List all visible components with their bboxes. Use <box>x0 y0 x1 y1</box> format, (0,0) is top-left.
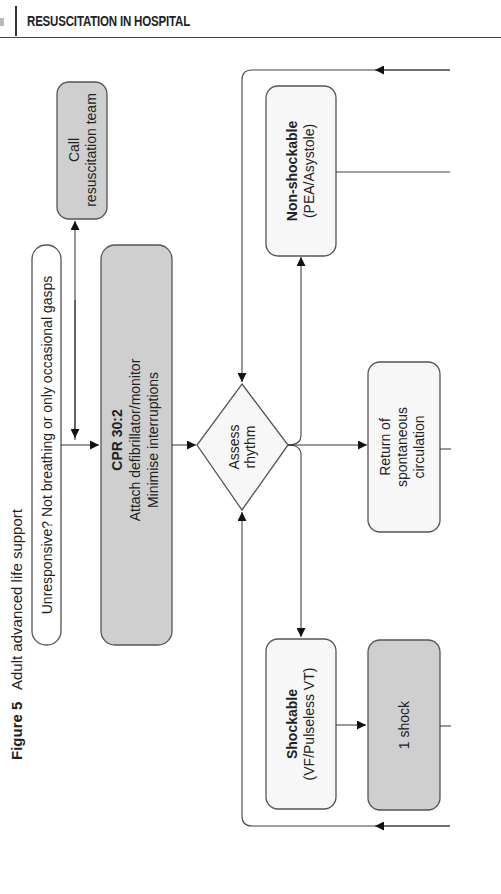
node-rosc-line1: Return of <box>377 418 393 476</box>
als-flowchart: Figure 5 Adult advanced life support Unr… <box>0 0 501 894</box>
node-assess-line2: rhythm <box>242 426 258 469</box>
node-cpr-line3: Minimise interruptions <box>145 372 161 508</box>
figure-label: Figure 5 <box>8 702 25 760</box>
node-call-team-box <box>57 82 107 219</box>
node-unresponsive-text: Unresponsive? Not breathing or only occa… <box>39 276 55 615</box>
branch-to-shockable <box>288 445 301 637</box>
node-cpr-line1: CPR 30:2 <box>109 409 125 471</box>
node-shockable-line1: Shockable <box>284 689 300 759</box>
node-shockable-line2: (VF/Pulseless VT) <box>301 668 317 781</box>
node-non-shockable-line1: Non-shockable <box>284 121 300 222</box>
figure-caption: Figure 5 Adult advanced life support <box>8 508 25 760</box>
figure-title: Adult advanced life support <box>8 508 25 690</box>
node-call-team-line1: Call <box>66 138 82 162</box>
branch-to-non-shockable <box>288 257 301 445</box>
node-non-shockable-line2: (PEA/Asystole) <box>301 124 317 218</box>
node-shock-line1: 1 shock <box>396 700 412 749</box>
node-rosc-line3: circulation <box>411 415 427 478</box>
node-cpr-line2: Attach defibrillator/monitor <box>127 358 143 521</box>
node-call-team-line2: resuscitation team <box>83 93 99 207</box>
node-rosc-line2: spontaneous <box>394 407 410 487</box>
node-assess-line1: Assess <box>226 424 242 469</box>
